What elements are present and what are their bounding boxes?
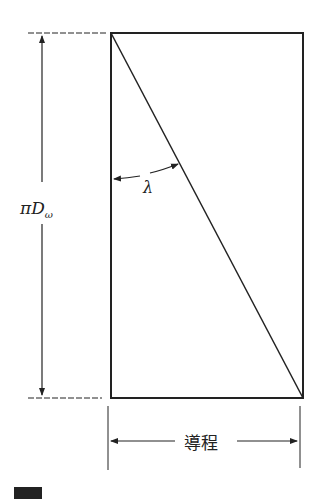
lead-angle-arc-right bbox=[150, 164, 178, 173]
figure-marker bbox=[14, 487, 42, 499]
height-label-subscript: ω bbox=[45, 209, 53, 220]
height-label-text: πD bbox=[20, 198, 45, 218]
helix-diagonal bbox=[111, 33, 303, 398]
lead-label: 導程 bbox=[184, 429, 218, 454]
height-label: πDω bbox=[20, 198, 53, 220]
angle-label: λ bbox=[143, 178, 153, 197]
lead-angle-arc bbox=[114, 176, 140, 179]
